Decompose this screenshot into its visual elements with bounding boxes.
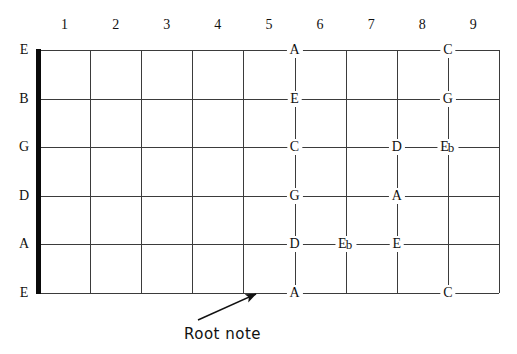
note-marker: E bbox=[389, 236, 404, 252]
note-letter: D bbox=[289, 236, 299, 251]
fret-number-1: 1 bbox=[50, 18, 80, 32]
fret-line-7 bbox=[397, 50, 398, 293]
string-label-2-G: G bbox=[14, 140, 34, 154]
fret-number-7: 7 bbox=[356, 18, 386, 32]
fret-number-3: 3 bbox=[152, 18, 182, 32]
note-marker: C bbox=[287, 139, 302, 155]
string-line-B bbox=[39, 99, 499, 100]
note-marker: A bbox=[286, 42, 302, 58]
note-marker: G bbox=[440, 91, 456, 107]
note-marker: A bbox=[389, 188, 405, 204]
string-line-E bbox=[39, 50, 499, 51]
fret-line-9 bbox=[499, 50, 500, 293]
note-marker: C bbox=[440, 42, 455, 58]
root-note-label: Root note bbox=[184, 325, 261, 343]
fret-line-4 bbox=[243, 50, 244, 293]
note-accidental-flat-icon: b bbox=[346, 237, 353, 252]
note-marker: G bbox=[286, 188, 302, 204]
note-letter: C bbox=[443, 285, 452, 300]
note-marker: E bbox=[287, 91, 302, 107]
string-line-A bbox=[39, 244, 499, 245]
note-marker: Eb bbox=[335, 236, 356, 252]
fret-number-9: 9 bbox=[458, 18, 488, 32]
note-marker: C bbox=[440, 285, 455, 301]
fret-line-3 bbox=[192, 50, 193, 293]
note-letter: E bbox=[392, 236, 401, 251]
note-letter: G bbox=[289, 188, 299, 203]
note-letter: C bbox=[443, 42, 452, 57]
string-label-3-D: D bbox=[14, 189, 34, 203]
fret-number-8: 8 bbox=[407, 18, 437, 32]
note-letter: A bbox=[289, 42, 299, 57]
fret-number-4: 4 bbox=[203, 18, 233, 32]
fret-line-5 bbox=[295, 50, 296, 293]
string-line-D bbox=[39, 196, 499, 197]
fret-line-1 bbox=[90, 50, 91, 293]
note-marker: D bbox=[286, 236, 302, 252]
string-label-4-A: A bbox=[14, 237, 34, 251]
note-marker: D bbox=[389, 139, 405, 155]
fret-line-8 bbox=[448, 50, 449, 293]
fretboard-diagram: 123456789 EBGDAE ACEGCDEbGADEbEAC Root n… bbox=[0, 0, 517, 354]
note-marker: A bbox=[286, 285, 302, 301]
fret-line-2 bbox=[141, 50, 142, 293]
note-marker: Eb bbox=[437, 139, 458, 155]
note-letter: A bbox=[392, 188, 402, 203]
fret-number-6: 6 bbox=[305, 18, 335, 32]
string-label-1-B: B bbox=[14, 92, 34, 106]
nut bbox=[36, 49, 41, 294]
fret-number-2: 2 bbox=[101, 18, 131, 32]
note-letter: A bbox=[289, 285, 299, 300]
note-letter: C bbox=[290, 139, 299, 154]
string-label-0-E: E bbox=[14, 43, 34, 57]
fret-number-5: 5 bbox=[254, 18, 284, 32]
note-letter: E bbox=[290, 91, 299, 106]
fret-line-6 bbox=[346, 50, 347, 293]
note-letter: D bbox=[392, 139, 402, 154]
string-line-G bbox=[39, 147, 499, 148]
note-accidental-flat-icon: b bbox=[448, 140, 455, 155]
note-letter: G bbox=[443, 91, 453, 106]
string-label-5-E: E bbox=[14, 286, 34, 300]
